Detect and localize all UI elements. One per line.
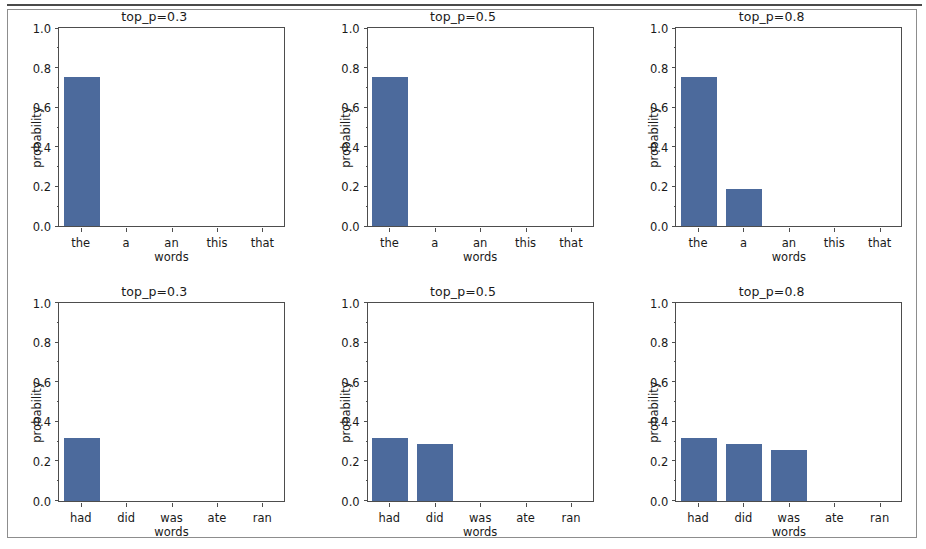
y-tick-label: 1.0 bbox=[33, 297, 51, 311]
x-tick-mark bbox=[480, 228, 481, 232]
y-tick-label: 0.0 bbox=[650, 220, 668, 234]
bar bbox=[372, 77, 408, 226]
bar-slot bbox=[239, 303, 284, 501]
x-tick-label: a bbox=[103, 236, 148, 250]
y-tick-label: 0.4 bbox=[33, 415, 51, 429]
x-tick-mark bbox=[389, 228, 390, 232]
x-tick-label: that bbox=[857, 236, 902, 250]
y-tick-label: 0.4 bbox=[650, 141, 668, 155]
x-axis-label: words bbox=[58, 250, 285, 264]
y-axis-label: probability bbox=[30, 381, 44, 442]
figure-canvas: top_p=0.3probability0.00.20.40.60.81.0th… bbox=[0, 0, 926, 549]
bar bbox=[372, 438, 408, 501]
x-tick-mark bbox=[435, 503, 436, 507]
plot-area: 0.00.20.40.60.81.0 bbox=[367, 302, 594, 502]
bar-series bbox=[59, 303, 284, 501]
x-axis-label: words bbox=[58, 525, 285, 539]
x-tick: that bbox=[857, 228, 902, 250]
x-tick-mark bbox=[571, 228, 572, 232]
x-tick: that bbox=[240, 228, 285, 250]
x-tick-label: the bbox=[58, 236, 103, 250]
subplot: top_p=0.3probability0.00.20.40.60.81.0th… bbox=[0, 0, 309, 275]
x-tick-mark bbox=[81, 228, 82, 232]
y-axis-label: probability bbox=[30, 107, 44, 168]
y-tick-label: 0.2 bbox=[650, 455, 668, 469]
x-tick-mark bbox=[126, 503, 127, 507]
bar-slot bbox=[503, 28, 548, 226]
x-tick: the bbox=[58, 228, 103, 250]
x-axis-ticks: theaanthisthat bbox=[367, 228, 594, 250]
x-tick-label: did bbox=[412, 511, 457, 525]
y-tick-label: 0.0 bbox=[341, 495, 359, 509]
x-tick: a bbox=[103, 228, 148, 250]
x-tick-label: ran bbox=[240, 511, 285, 525]
bar-slot bbox=[676, 303, 721, 501]
x-tick: this bbox=[194, 228, 239, 250]
x-tick-mark bbox=[698, 503, 699, 507]
bar-slot bbox=[59, 28, 104, 226]
x-tick-label: ran bbox=[857, 511, 902, 525]
bar-slot bbox=[766, 28, 811, 226]
y-axis-label: probability bbox=[338, 381, 352, 442]
y-tick-label: 1.0 bbox=[650, 22, 668, 36]
bar-slot bbox=[59, 303, 104, 501]
x-axis-ticks: theaanthisthat bbox=[58, 228, 285, 250]
x-tick-label: ate bbox=[194, 511, 239, 525]
y-tick-label: 0.2 bbox=[33, 180, 51, 194]
y-tick-label: 0.4 bbox=[341, 141, 359, 155]
x-tick-label: had bbox=[367, 511, 412, 525]
bar-series bbox=[368, 303, 593, 501]
y-tick-label: 0.4 bbox=[33, 141, 51, 155]
bar-slot bbox=[413, 28, 458, 226]
x-tick-label: this bbox=[812, 236, 857, 250]
bar bbox=[64, 438, 100, 501]
x-tick-mark bbox=[698, 228, 699, 232]
x-tick-label: an bbox=[766, 236, 811, 250]
x-tick-mark bbox=[880, 228, 881, 232]
bar bbox=[64, 77, 100, 226]
y-tick-label: 1.0 bbox=[341, 297, 359, 311]
y-tick-label: 0.0 bbox=[650, 495, 668, 509]
x-tick: a bbox=[412, 228, 457, 250]
bar-slot bbox=[676, 28, 721, 226]
x-tick: ate bbox=[812, 503, 857, 525]
y-tick-label: 1.0 bbox=[650, 297, 668, 311]
bar bbox=[681, 77, 717, 226]
x-tick-label: that bbox=[240, 236, 285, 250]
x-tick-label: the bbox=[367, 236, 412, 250]
x-tick-label: that bbox=[548, 236, 593, 250]
bar-slot bbox=[721, 28, 766, 226]
bar-series bbox=[676, 28, 901, 226]
x-axis-label: words bbox=[675, 250, 902, 264]
x-tick-mark bbox=[81, 503, 82, 507]
x-tick-label: did bbox=[103, 511, 148, 525]
bar-series bbox=[59, 28, 284, 226]
x-tick-mark bbox=[217, 228, 218, 232]
y-tick-label: 0.8 bbox=[341, 62, 359, 76]
x-axis-ticks: theaanthisthat bbox=[675, 228, 902, 250]
y-tick-label: 0.2 bbox=[650, 180, 668, 194]
y-tick-label: 0.6 bbox=[33, 376, 51, 390]
x-tick-label: had bbox=[675, 511, 720, 525]
bar bbox=[681, 438, 717, 501]
x-tick-label: ate bbox=[812, 511, 857, 525]
x-tick: was bbox=[766, 503, 811, 525]
x-tick-label: a bbox=[412, 236, 457, 250]
x-tick-mark bbox=[435, 228, 436, 232]
bar-slot bbox=[811, 303, 856, 501]
bar-slot bbox=[458, 303, 503, 501]
subplot: top_p=0.5probability0.00.20.40.60.81.0ha… bbox=[309, 275, 618, 549]
x-tick: had bbox=[58, 503, 103, 525]
bar-slot bbox=[194, 28, 239, 226]
x-tick: ran bbox=[548, 503, 593, 525]
y-tick-label: 0.6 bbox=[341, 101, 359, 115]
y-tick-label: 0.0 bbox=[33, 220, 51, 234]
x-tick-mark bbox=[172, 228, 173, 232]
x-tick-mark bbox=[880, 503, 881, 507]
bar bbox=[726, 189, 762, 226]
x-tick: an bbox=[457, 228, 502, 250]
x-tick-mark bbox=[480, 503, 481, 507]
y-tick-label: 0.8 bbox=[650, 62, 668, 76]
x-tick: ate bbox=[503, 503, 548, 525]
bar-series bbox=[368, 28, 593, 226]
